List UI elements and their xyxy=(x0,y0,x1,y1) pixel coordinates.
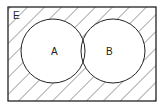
venn-diagram: E A B xyxy=(0,0,159,112)
set-a-label: A xyxy=(51,46,58,57)
set-b-label: B xyxy=(106,46,113,57)
universe-label: E xyxy=(13,10,20,21)
